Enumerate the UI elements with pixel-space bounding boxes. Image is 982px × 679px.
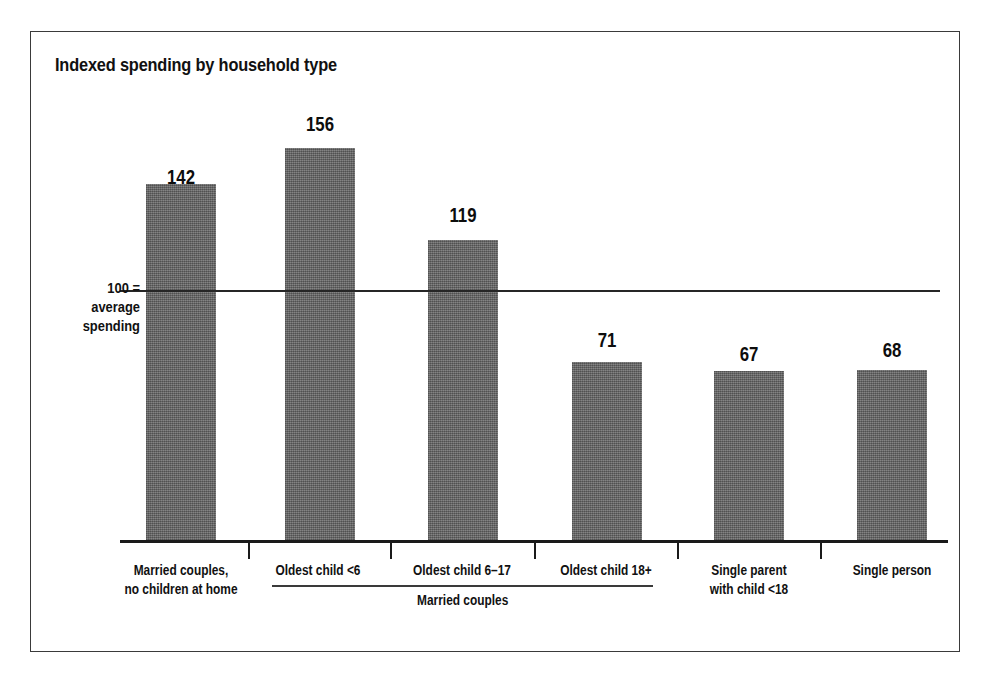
category-label-oldest-child-18-plus: Oldest child 18+ — [546, 561, 667, 580]
category-label-line1: Single parent — [689, 561, 810, 580]
category-label-line2: no children at home — [113, 580, 249, 599]
y-axis-reference-note: 100 = average spending — [54, 278, 140, 335]
group-bracket-label: Married couples — [272, 592, 653, 608]
category-label-line2: with child <18 — [689, 580, 810, 599]
y-axis-note-line3: spending — [54, 316, 140, 335]
group-bracket-line — [272, 585, 653, 587]
category-label-line1: Oldest child <6 — [258, 561, 379, 580]
category-label-line1: Single person — [832, 561, 953, 580]
y-axis-note-line1: 100 = — [54, 278, 140, 297]
category-label-oldest-child-6-17: Oldest child 6–17 — [402, 561, 523, 580]
category-label-line1: Married couples, — [113, 561, 249, 580]
category-label-married-no-children: Married couples, no children at home — [113, 561, 249, 599]
category-label-single-person: Single person — [832, 561, 953, 580]
chart-frame — [30, 31, 960, 652]
category-label-single-parent: Single parent with child <18 — [689, 561, 810, 599]
category-label-line1: Oldest child 18+ — [546, 561, 667, 580]
chart-page: Indexed spending by household type 142 1… — [0, 0, 982, 679]
group-bracket-label-text: Married couples — [417, 592, 508, 608]
chart-title: Indexed spending by household type — [55, 54, 337, 76]
y-axis-note-line2: average — [54, 297, 140, 316]
category-label-line1: Oldest child 6–17 — [402, 561, 523, 580]
category-label-oldest-child-under-6: Oldest child <6 — [258, 561, 379, 580]
